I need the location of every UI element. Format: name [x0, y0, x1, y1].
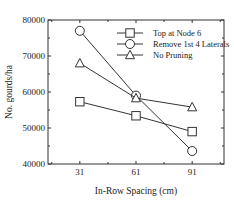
- y-axis-title: No. gourds/ha: [4, 64, 14, 119]
- square-marker-icon: [132, 112, 140, 120]
- series-triangle: [75, 59, 196, 111]
- triangle-marker-icon: [75, 59, 84, 67]
- y-tick-label: 50000: [23, 123, 46, 133]
- legend-label: Remove 1st 4 Laterals: [153, 39, 229, 49]
- x-tick-label: 61: [132, 167, 141, 177]
- square-marker-icon: [76, 98, 84, 106]
- circle-marker-icon: [126, 40, 135, 49]
- legend-item: Remove 1st 4 Laterals: [117, 39, 229, 49]
- y-tick-label: 40000: [23, 159, 46, 169]
- y-tick-label: 60000: [23, 87, 46, 97]
- line-chart: 4000050000600007000080000 316191 Top at …: [0, 0, 234, 203]
- square-marker-icon: [188, 127, 196, 135]
- y-tick-label: 80000: [23, 15, 46, 25]
- square-marker-icon: [126, 29, 134, 37]
- series-square: [76, 98, 197, 136]
- circle-marker-icon: [188, 147, 197, 156]
- legend-item: No Pruning: [117, 50, 193, 60]
- circle-marker-icon: [75, 26, 84, 35]
- x-tick-label: 91: [188, 167, 197, 177]
- legend-label: No Pruning: [153, 50, 193, 60]
- y-tick-label: 70000: [23, 51, 46, 61]
- legend-label: Top at Node 6: [153, 28, 201, 38]
- x-axis-title: In-Row Spacing (cm): [95, 186, 177, 197]
- legend-item: Top at Node 6: [117, 28, 201, 38]
- x-tick-label: 31: [75, 167, 84, 177]
- legend: Top at Node 6Remove 1st 4 LateralsNo Pru…: [117, 28, 229, 60]
